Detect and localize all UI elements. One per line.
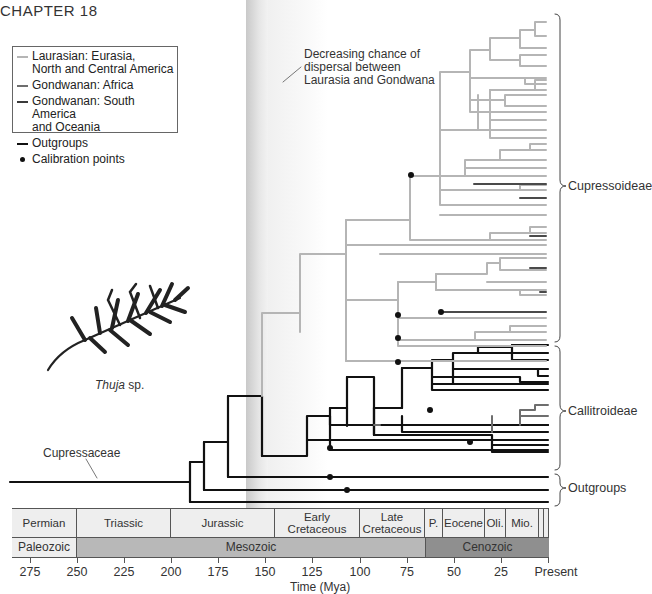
tick	[124, 557, 125, 563]
period-late-cretaceous: Late Cretaceous	[360, 508, 425, 537]
timescale-mid-border	[12, 537, 549, 538]
phylogenetic-tree	[0, 0, 651, 510]
epoch-paleocene: P.	[425, 508, 443, 537]
gondwanan-branches-in-cupressoideae	[441, 184, 546, 312]
tick-label: 175	[208, 565, 229, 579]
calibration-point	[327, 445, 333, 451]
calibration-point	[327, 474, 333, 480]
tick	[360, 557, 361, 563]
tick-label: 275	[20, 565, 41, 579]
calibration-point	[395, 335, 401, 341]
tick	[30, 557, 31, 563]
clade-label-callitroideae: Callitroideae	[568, 404, 637, 418]
tick	[312, 557, 313, 563]
epoch-eocene: Eocene	[443, 508, 485, 537]
timescale-bottom-border	[12, 557, 549, 558]
root-label-cupressaceae: Cupressaceae	[43, 446, 120, 460]
specimen-genus: Thuja	[95, 378, 125, 392]
specimen-caption: Thuja sp.	[95, 378, 144, 392]
tick-label: 200	[161, 565, 182, 579]
calibration-point	[344, 487, 350, 493]
era-cenozoic: Cenozoic	[425, 537, 549, 557]
outgroup-branches	[10, 345, 548, 502]
tick-label: 25	[494, 565, 508, 579]
tick	[454, 557, 455, 563]
epoch-miocene: Mio.	[506, 508, 539, 537]
tick-label: 100	[350, 565, 371, 579]
tick-label: 225	[114, 565, 135, 579]
specimen-suffix: sp.	[125, 378, 144, 392]
clade-label-cupressoideae: Cupressoideae	[568, 179, 652, 193]
tick	[218, 557, 219, 563]
period-triassic: Triassic	[77, 508, 171, 537]
tick-label-present: Present	[534, 565, 577, 579]
clade-label-outgroups: Outgroups	[568, 481, 626, 495]
tick-label: 50	[447, 565, 461, 579]
calibration-point	[427, 407, 433, 413]
x-axis-label: Time (Mya)	[290, 580, 350, 594]
era-mesozoic: Mesozoic	[77, 537, 425, 557]
calibration-point	[395, 312, 401, 318]
calibration-point	[395, 359, 401, 365]
tick-label: 125	[302, 565, 323, 579]
geologic-timescale: Permian Triassic Jurassic Early Cretaceo…	[12, 508, 549, 557]
period-jurassic: Jurassic	[171, 508, 275, 537]
timescale-top-border	[12, 508, 549, 509]
calibration-point	[408, 172, 414, 178]
era-paleozoic: Paleozoic	[12, 537, 77, 557]
thuja-sprig-illustration	[48, 284, 188, 370]
tick	[548, 557, 549, 563]
epoch-oligocene: Oli.	[485, 508, 506, 537]
calibration-point	[438, 309, 444, 315]
period-permian: Permian	[12, 508, 77, 537]
tick	[407, 557, 408, 563]
tick-label: 75	[400, 565, 414, 579]
tick-label: 250	[67, 565, 88, 579]
clade-braces	[555, 14, 566, 506]
tick-label: 150	[255, 565, 276, 579]
calibration-point	[467, 439, 473, 445]
tick	[171, 557, 172, 563]
laurasian-branches	[262, 22, 546, 396]
epoch-pleistocene	[544, 508, 549, 537]
tick	[501, 557, 502, 563]
tick	[265, 557, 266, 563]
tick	[77, 557, 78, 563]
period-early-cretaceous: Early Cretaceous	[275, 508, 360, 537]
